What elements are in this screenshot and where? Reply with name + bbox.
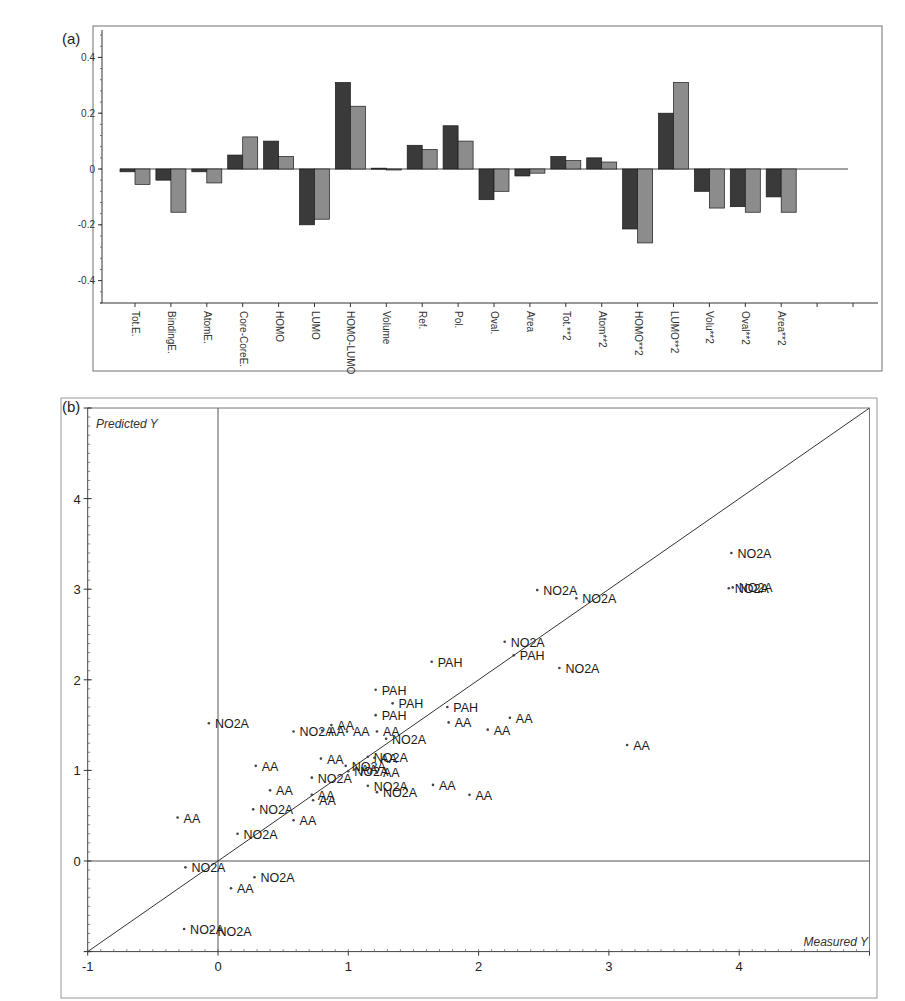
bar-dark xyxy=(156,169,171,180)
y-tick-label: 2 xyxy=(73,673,80,688)
point-marker xyxy=(183,928,186,931)
point-label: AA xyxy=(439,779,456,793)
data-point: AA xyxy=(230,882,255,896)
x-tick-label: Tot.**2 xyxy=(561,311,572,341)
bar-light xyxy=(530,169,545,173)
point-marker xyxy=(432,784,435,787)
bar-light xyxy=(494,169,509,191)
point-marker xyxy=(626,744,629,747)
bar-light xyxy=(243,137,258,169)
data-point: AA xyxy=(312,794,337,808)
point-marker xyxy=(210,929,213,932)
data-point: NO2A xyxy=(311,772,353,786)
data-point: AA xyxy=(626,739,651,753)
data-point: PAH xyxy=(446,701,478,715)
point-marker xyxy=(447,721,450,724)
point-marker xyxy=(376,771,379,774)
point-label: AA xyxy=(327,753,344,767)
bar-light xyxy=(781,169,796,212)
bar-light xyxy=(674,83,689,169)
point-label: AA xyxy=(353,725,370,739)
point-label: AA xyxy=(319,794,336,808)
bar-dark xyxy=(623,169,638,229)
point-label: PAH xyxy=(438,656,463,670)
point-label: PAH xyxy=(520,649,545,663)
point-label: NO2A xyxy=(392,733,427,747)
bar-dark xyxy=(335,83,350,169)
point-marker xyxy=(730,552,733,555)
data-point: AA xyxy=(176,812,201,826)
point-marker xyxy=(321,729,324,732)
data-point: NO2A xyxy=(184,861,226,875)
point-marker xyxy=(346,730,349,733)
point-label: AA xyxy=(633,739,650,753)
point-label: AA xyxy=(475,789,492,803)
data-point: NO2A xyxy=(536,584,578,598)
x-tick-label: HOMO**2 xyxy=(633,311,644,356)
bar-dark xyxy=(766,169,781,197)
point-label: NO2A xyxy=(217,925,252,939)
data-point: AA xyxy=(292,814,317,828)
x-tick-label: Pol. xyxy=(453,311,464,328)
bar-dark xyxy=(443,126,458,169)
data-point: PAH xyxy=(374,709,406,723)
bar-dark xyxy=(730,169,745,207)
data-point: PAH xyxy=(430,656,462,670)
point-marker xyxy=(503,640,506,643)
bar-light xyxy=(602,162,617,169)
point-marker xyxy=(446,706,449,709)
bar-light xyxy=(458,141,473,169)
point-marker xyxy=(320,757,323,760)
figure: (a) 0.40.20-0.2-0.4 Tot.E.BindingE.AtomE… xyxy=(0,0,905,1001)
point-marker xyxy=(311,794,314,797)
y-tick-label: 0.2 xyxy=(81,108,95,119)
point-marker xyxy=(486,728,489,731)
y-tick-label: 1 xyxy=(73,763,80,778)
point-label: NO2A xyxy=(582,592,617,606)
bar-dark xyxy=(659,113,674,169)
y-tick-label: -0.4 xyxy=(78,275,96,286)
point-marker xyxy=(367,756,370,759)
data-point: AA xyxy=(269,784,294,798)
bar-dark xyxy=(551,156,566,169)
x-tick-label: Volu**2 xyxy=(704,311,715,344)
x-tick-label: LUMO xyxy=(310,311,321,340)
point-marker xyxy=(558,667,561,670)
point-label: AA xyxy=(516,712,533,726)
data-point: NO2A xyxy=(575,592,617,606)
bar-light xyxy=(709,169,724,208)
x-tick-label: Atom**2 xyxy=(597,311,608,348)
data-point: PAH xyxy=(512,649,544,663)
panel-b-label: (b) xyxy=(62,398,80,415)
x-tick-label: HOMO xyxy=(274,311,285,342)
x-tick-label: BindingE. xyxy=(166,311,177,354)
bar-light xyxy=(135,169,150,184)
point-marker xyxy=(509,717,512,720)
point-marker xyxy=(354,768,357,771)
data-point: AA xyxy=(320,753,345,767)
point-label: NO2A xyxy=(318,772,353,786)
point-marker xyxy=(468,794,471,797)
point-marker xyxy=(312,799,315,802)
bar-light xyxy=(279,156,294,169)
y-tick-label: 4 xyxy=(73,492,80,507)
bar-dark xyxy=(371,168,386,169)
bar-dark xyxy=(479,169,494,200)
bar-dark xyxy=(694,169,709,191)
point-marker xyxy=(512,654,515,657)
panel-a-bars xyxy=(120,83,796,243)
data-point: AA xyxy=(432,779,457,793)
bar-light xyxy=(386,169,401,170)
x-tick-label: HOMO-LUMO xyxy=(345,311,356,375)
x-tick-label: Area xyxy=(525,311,536,333)
point-marker xyxy=(376,730,379,733)
point-label: AA xyxy=(328,725,345,739)
bar-light xyxy=(422,149,437,169)
data-point: NO2A xyxy=(208,717,250,731)
point-marker xyxy=(311,776,314,779)
bar-light xyxy=(745,169,760,212)
point-marker xyxy=(575,597,578,600)
x-tick-label: 0 xyxy=(214,959,221,974)
point-marker xyxy=(208,722,211,725)
bar-dark xyxy=(407,145,422,169)
